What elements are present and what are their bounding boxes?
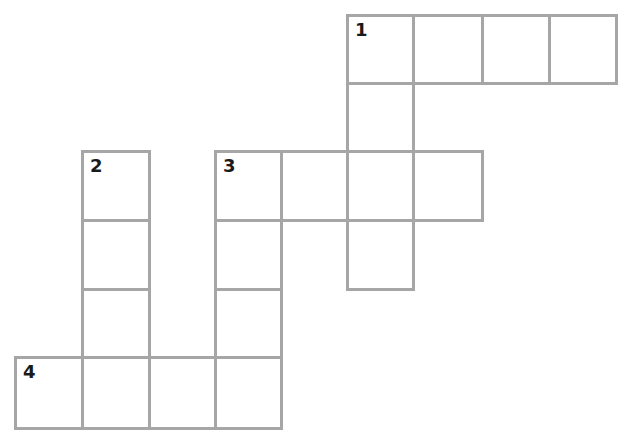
crossword-cell[interactable] <box>81 288 151 359</box>
crossword-cell[interactable] <box>214 219 283 291</box>
crossword-cell[interactable]: 1 <box>346 14 415 85</box>
clue-number: 2 <box>90 157 103 175</box>
crossword-grid: 1234 <box>0 0 627 446</box>
crossword-cell[interactable] <box>346 219 415 291</box>
crossword-cell[interactable] <box>214 356 283 430</box>
crossword-cell[interactable] <box>81 356 151 430</box>
clue-number: 4 <box>23 363 36 381</box>
clue-number: 1 <box>355 21 368 39</box>
crossword-cell[interactable] <box>412 150 484 222</box>
crossword-cell[interactable]: 3 <box>214 150 283 222</box>
crossword-cell[interactable] <box>481 14 551 85</box>
crossword-cell[interactable] <box>280 150 349 222</box>
crossword-cell[interactable] <box>412 14 484 85</box>
crossword-cell[interactable] <box>148 356 217 430</box>
clue-number: 3 <box>223 157 236 175</box>
crossword-cell[interactable] <box>548 14 618 85</box>
crossword-cell[interactable]: 2 <box>81 150 151 222</box>
crossword-cell[interactable] <box>81 219 151 291</box>
crossword-cell[interactable] <box>346 82 415 153</box>
crossword-cell[interactable] <box>214 288 283 359</box>
crossword-cell[interactable] <box>346 150 415 222</box>
crossword-cell[interactable]: 4 <box>14 356 84 430</box>
